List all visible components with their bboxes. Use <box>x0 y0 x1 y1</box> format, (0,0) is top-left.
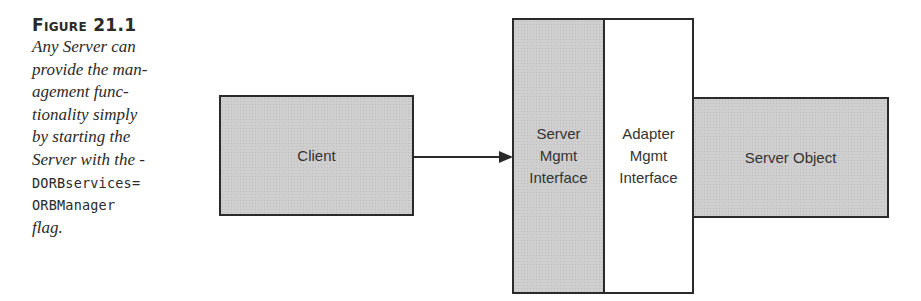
caption-line: by starting the <box>32 126 202 149</box>
server-object-box: Server Object <box>692 97 889 218</box>
caption-line: Any Server can <box>32 36 202 59</box>
server-mgmt-line: Mgmt <box>529 145 587 167</box>
caption-code-line: ORBManager <box>32 194 202 217</box>
server-mgmt-interface-box: Server Mgmt Interface <box>512 18 605 294</box>
client-label: Client <box>297 145 335 167</box>
caption-line: agement func- <box>32 81 202 104</box>
adapter-mgmt-line: Mgmt <box>619 145 677 167</box>
figure-title: Figure 21.1 <box>32 14 202 36</box>
arrow-icon <box>413 150 515 166</box>
adapter-mgmt-line: Adapter <box>619 123 677 145</box>
server-mgmt-line: Server <box>529 123 587 145</box>
caption-code-line: DORBservices= <box>32 172 202 195</box>
figure-caption: Figure 21.1 Any Server can provide the m… <box>32 14 202 239</box>
caption-line: flag. <box>32 217 202 240</box>
server-mgmt-line: Interface <box>529 167 587 189</box>
server-object-label: Server Object <box>745 147 837 169</box>
adapter-mgmt-interface-box: Adapter Mgmt Interface <box>603 18 694 294</box>
client-box: Client <box>219 95 414 216</box>
caption-line: tionality simply <box>32 104 202 127</box>
caption-line: provide the man- <box>32 59 202 82</box>
adapter-mgmt-line: Interface <box>619 167 677 189</box>
caption-line: Server with the - <box>32 149 202 172</box>
